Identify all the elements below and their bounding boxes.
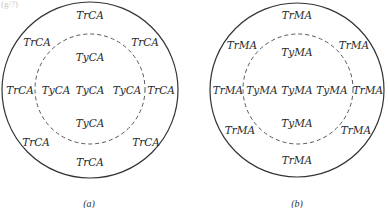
inner-label: TyCA bbox=[76, 51, 105, 63]
outer-label: TrCA bbox=[131, 36, 159, 48]
inner-label: TyMA bbox=[246, 84, 278, 96]
inner-label: TyMA bbox=[281, 117, 313, 129]
outer-label: TrCA bbox=[22, 136, 50, 148]
inner-label: TyCA bbox=[76, 84, 105, 96]
inner-label: TyMA bbox=[281, 84, 313, 96]
outer-label: TrCA bbox=[147, 84, 175, 96]
panel-caption-a: (a) bbox=[83, 198, 95, 209]
outer-label: TrCA bbox=[132, 136, 160, 148]
inner-label: TyCA bbox=[76, 117, 105, 129]
outer-label: TrCA bbox=[76, 9, 104, 21]
outer-label: TrCA bbox=[6, 84, 34, 96]
panel-a: TrCA TrCA TrCA TrCA TrCA TrCA TrCA TrCA … bbox=[2, 2, 178, 208]
header-fragment: (g/?) bbox=[1, 0, 18, 9]
outer-label: TrCA bbox=[76, 156, 104, 168]
inner-label: TyMA bbox=[281, 46, 313, 58]
outer-label: TrMA bbox=[282, 9, 313, 21]
diagram-canvas: (g/?) TrCA TrCA TrCA TrCA TrCA TrCA TrCA… bbox=[0, 0, 388, 208]
outer-label: TrCA bbox=[23, 36, 51, 48]
inner-label: TyCA bbox=[42, 84, 71, 96]
outer-label: TrMA bbox=[225, 124, 256, 136]
outer-label: TrMA bbox=[227, 39, 258, 51]
outer-label: TrMA bbox=[353, 84, 384, 96]
outer-label: TrMA bbox=[339, 39, 370, 51]
inner-label: TyCA bbox=[113, 84, 142, 96]
inner-label: TyMA bbox=[316, 84, 348, 96]
panel-b: TrMA TrMA TrMA TrMA TrMA TrMA TrMA TrMA … bbox=[210, 3, 384, 208]
panel-caption-b: (b) bbox=[291, 198, 303, 209]
outer-label: TrMA bbox=[213, 84, 244, 96]
outer-label: TrMA bbox=[282, 154, 313, 166]
outer-label: TrMA bbox=[341, 124, 372, 136]
